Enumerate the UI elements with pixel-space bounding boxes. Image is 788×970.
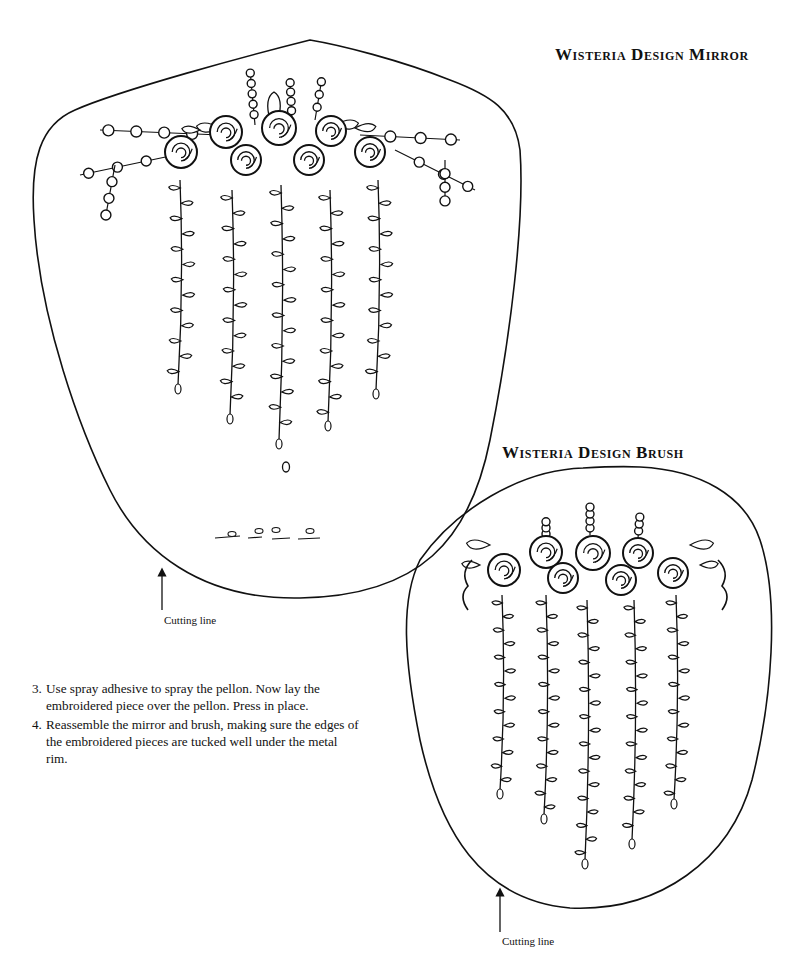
leaf-motif <box>679 696 689 700</box>
sprig-stem <box>80 155 175 175</box>
hanging-vine <box>167 180 194 394</box>
bud-motif <box>586 503 594 511</box>
leaf-motif <box>233 364 245 369</box>
leaf-motif <box>501 778 511 782</box>
leaf-motif <box>331 364 343 369</box>
leaf-motif <box>545 805 555 809</box>
bud-sprig <box>313 78 325 120</box>
rose-motif <box>262 111 296 145</box>
leaf-motif <box>504 723 514 727</box>
leaf-motif <box>491 764 501 768</box>
leaf-motif <box>271 221 283 226</box>
leaf-motif <box>637 701 647 705</box>
leaf-motif <box>675 778 685 782</box>
leaf-motif <box>625 633 635 637</box>
rose-outline <box>262 111 296 145</box>
bud-motif <box>101 210 111 220</box>
leaf-motif <box>536 601 546 605</box>
leaf-motif <box>280 420 292 425</box>
hanging-vine <box>575 600 600 869</box>
leaf-motif <box>636 647 646 651</box>
leaf-motif <box>678 642 688 646</box>
rose-outline <box>623 538 653 568</box>
leaf-motif <box>547 614 557 618</box>
bud-motif <box>84 168 94 178</box>
leaf-motif <box>320 226 332 231</box>
leaf-motif <box>622 823 632 827</box>
leaf-motif <box>503 614 513 618</box>
leaf-motif <box>319 196 331 201</box>
pattern-artwork <box>0 0 788 970</box>
rose-motif <box>165 136 197 168</box>
leaf-motif <box>317 410 329 415</box>
leaf-motif <box>183 293 195 298</box>
hanging-vine <box>220 190 246 424</box>
leaf-motif <box>331 211 343 216</box>
bud-motif <box>287 97 295 105</box>
ground-bud <box>255 529 263 534</box>
bud-motif <box>103 125 114 136</box>
rose-motif <box>210 116 242 148</box>
ground-stitch <box>215 528 320 540</box>
leaf-motif <box>590 755 600 759</box>
bud-motif <box>463 181 473 191</box>
vine-tip-bud <box>175 384 181 394</box>
vine-tip-bud <box>373 389 379 399</box>
leaf-motif <box>220 379 232 384</box>
leaf-motif <box>667 628 677 632</box>
vine-stem <box>376 180 380 390</box>
rose-outline <box>576 536 610 570</box>
leaf-motif <box>636 755 646 759</box>
leaf-motif <box>537 628 547 632</box>
instruction-step: 3. Use spray adhesive to spray the pello… <box>32 680 362 714</box>
leaf-motif <box>182 323 194 328</box>
bud-motif <box>250 111 258 119</box>
leaf-motif <box>381 293 393 298</box>
leaf-motif <box>284 267 296 272</box>
leaf-motif <box>222 226 234 231</box>
leaf-motif <box>549 696 559 700</box>
vine-tip-bud <box>276 439 282 449</box>
leaf-motif <box>586 837 596 841</box>
leaf-motif <box>677 614 687 618</box>
leaf-motif <box>690 540 713 549</box>
leaf-motif <box>222 349 234 354</box>
rose-motif <box>658 558 688 588</box>
rose-motif <box>548 563 578 593</box>
ground-bud <box>306 529 314 534</box>
vine-tip-bud <box>541 814 547 824</box>
leaf-motif <box>272 252 284 257</box>
bud-motif <box>246 69 254 77</box>
leaf-motif <box>235 272 247 277</box>
step-number: 3. <box>32 680 42 697</box>
rose-motif <box>294 145 324 175</box>
leaf-motif <box>700 561 718 568</box>
leaf-motif <box>170 216 182 221</box>
leaf-motif <box>590 674 600 678</box>
rose-motif <box>576 536 610 570</box>
bud-motif <box>159 127 170 138</box>
hanging-vine <box>269 185 296 449</box>
leaf-motif <box>332 333 344 338</box>
leaf-motif <box>578 633 588 637</box>
rose-motif <box>231 145 261 175</box>
leaf-motif <box>381 262 393 267</box>
leaf-motif <box>283 236 295 241</box>
bud-motif <box>440 169 450 179</box>
bud-motif <box>440 196 450 206</box>
instruction-step: 4. Reassemble the mirror and brush, maki… <box>32 716 362 767</box>
bud-sprig <box>586 503 594 535</box>
leaf-motif <box>333 272 345 277</box>
leaf-motif <box>576 823 586 827</box>
leaf-motif <box>549 669 559 673</box>
leaf-motif <box>271 374 283 379</box>
vine-tip-bud <box>582 859 588 869</box>
bud-motif <box>440 182 450 192</box>
vine-tip-bud <box>497 789 503 799</box>
bud-motif <box>636 513 644 521</box>
bud-motif <box>415 133 426 144</box>
leaf-motif <box>624 796 634 800</box>
rose-outline <box>231 145 261 175</box>
mirror-cutting-line-label: Cutting line <box>164 614 216 626</box>
bud-motif <box>315 91 323 99</box>
